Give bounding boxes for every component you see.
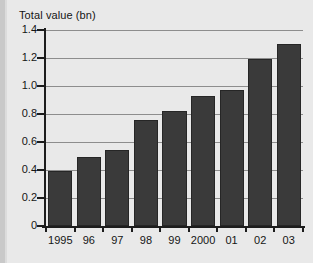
x-axis-tick-label: 98 [132,234,161,246]
bar[interactable] [77,157,101,226]
bar-slot [191,30,215,226]
bar-slot [48,30,72,226]
bar[interactable] [248,59,272,226]
x-axis-tick [216,226,218,232]
x-axis-tick [45,226,47,232]
x-axis-tick-label: 97 [103,234,132,246]
bar-slot [248,30,272,226]
bar[interactable] [277,44,301,226]
y-axis-tick-label: 0.8 [3,107,37,119]
bar-slot [162,30,186,226]
y-axis-tick [37,141,44,143]
x-axis-tick [131,226,133,232]
x-axis-tick [102,226,104,232]
y-axis-tick-label: 0.2 [3,191,37,203]
y-axis-tick-label: 0.4 [3,163,37,175]
y-axis-tick-label: 0.6 [3,135,37,147]
bar[interactable] [191,96,215,226]
y-axis-tick [37,85,44,87]
bar-slot [134,30,158,226]
x-axis-tick-label: 2000 [189,234,218,246]
bar[interactable] [134,120,158,226]
y-axis-tick-label: 1.0 [3,79,37,91]
x-axis-tick [302,226,304,232]
bar-slot [77,30,101,226]
bar-slot [105,30,129,226]
y-axis-labels: 00.20.40.60.81.01.21.4 [0,0,37,263]
x-axis-tick-label: 01 [217,234,246,246]
x-axis-line [42,226,305,228]
y-axis-tick-label: 1.2 [3,51,37,63]
bar[interactable] [48,171,72,226]
x-axis-tick-label: 99 [160,234,189,246]
x-axis-tick-label: 03 [274,234,303,246]
bar-series [46,30,303,226]
x-axis-tick-label: 96 [75,234,104,246]
bar[interactable] [220,90,244,226]
y-axis-tick [37,169,44,171]
y-axis-tick [37,113,44,115]
x-axis-tick-label: 1995 [46,234,75,246]
y-axis-tick-label: 0 [3,219,37,231]
bar[interactable] [162,111,186,226]
y-axis-tick [37,197,44,199]
y-axis-tick-label: 1.4 [3,23,37,35]
bar-slot [277,30,301,226]
y-axis-tick [37,57,44,59]
x-axis-tick [245,226,247,232]
x-axis-tick-label: 02 [246,234,275,246]
bar[interactable] [105,150,129,226]
x-axis-tick [273,226,275,232]
bar-slot [220,30,244,226]
chart-figure: Total value (bn) 00.20.40.60.81.01.21.4 … [0,0,313,263]
x-axis-tick [188,226,190,232]
x-axis-tick [74,226,76,232]
y-axis-tick [37,29,44,31]
x-axis-tick [159,226,161,232]
